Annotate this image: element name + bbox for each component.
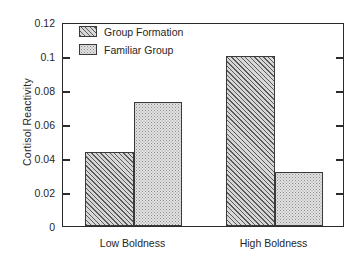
y-tick-label: 0.04 <box>0 153 55 165</box>
legend-label: Group Formation <box>104 26 183 38</box>
legend-swatch-icon <box>79 26 97 37</box>
y-tick-left <box>63 57 70 58</box>
y-tick-left <box>63 91 70 92</box>
y-tick-right <box>336 125 343 126</box>
y-tick-label: 0.12 <box>0 17 55 29</box>
bar <box>226 56 275 226</box>
x-tick-label: Low Boldness <box>100 237 165 249</box>
y-tick-label: 0.02 <box>0 187 55 199</box>
y-tick-right <box>336 193 343 194</box>
y-tick-right <box>336 159 343 160</box>
legend-item: Familiar Group <box>79 42 183 57</box>
x-tick-label: High Boldness <box>240 237 308 249</box>
y-tick-left <box>63 193 70 194</box>
bar <box>134 102 183 226</box>
y-tick-label: 0.1 <box>0 51 55 63</box>
legend-item: Group Formation <box>79 24 183 39</box>
y-tick-right <box>336 91 343 92</box>
legend: Group FormationFamiliar Group <box>79 24 183 60</box>
legend-label: Familiar Group <box>104 44 173 56</box>
bar <box>85 152 134 226</box>
y-tick-label: 0.08 <box>0 85 55 97</box>
legend-swatch-icon <box>79 44 97 55</box>
y-tick-left <box>63 125 70 126</box>
bar <box>275 172 324 226</box>
bar-chart: Cortisol Reactivity 00.020.040.060.080.1… <box>0 0 357 265</box>
y-tick-label: 0 <box>0 221 55 233</box>
y-tick-right <box>336 57 343 58</box>
y-tick-left <box>63 159 70 160</box>
y-tick-label: 0.06 <box>0 119 55 131</box>
